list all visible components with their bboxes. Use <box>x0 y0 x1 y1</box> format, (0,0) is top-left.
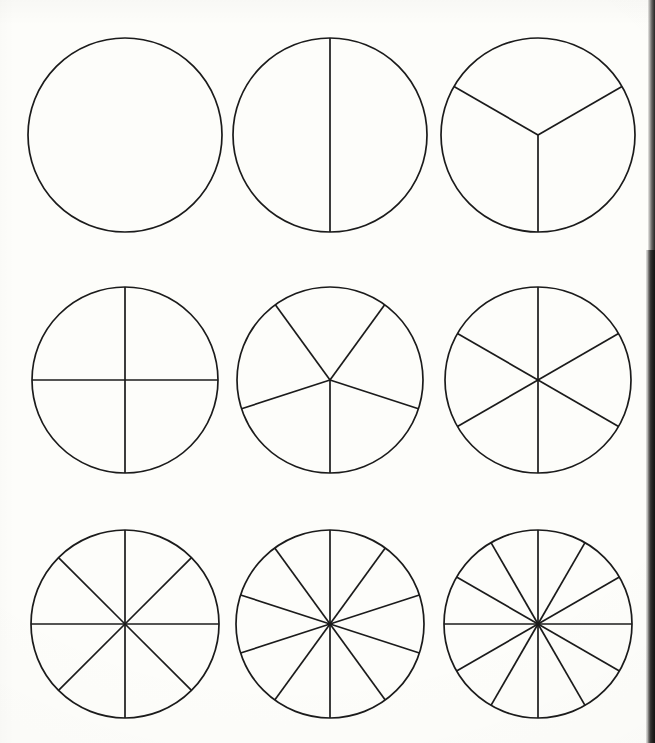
worksheet-page <box>0 0 655 743</box>
fraction-circle-eighths <box>31 530 219 718</box>
sector-divider-10 <box>275 548 330 624</box>
sector-divider-2 <box>125 558 191 624</box>
fraction-circle-halves <box>233 38 427 232</box>
fraction-circle-thirds <box>441 38 635 232</box>
sector-divider-2 <box>538 334 619 381</box>
sector-divider-2 <box>538 543 585 624</box>
fraction-circle-sixths <box>445 287 631 473</box>
sector-divider-6 <box>538 624 585 705</box>
sector-divider-4 <box>125 624 191 690</box>
sector-divider-5 <box>538 624 619 671</box>
circle-outline <box>28 38 222 232</box>
figures-layer <box>28 38 635 718</box>
sector-divider-5 <box>330 380 418 409</box>
sector-divider-3 <box>538 577 619 624</box>
sector-divider-3 <box>538 87 622 136</box>
fraction-circle-tenths <box>236 530 424 718</box>
sector-divider-9 <box>241 595 330 624</box>
sector-divider-5 <box>330 624 385 700</box>
fraction-circle-quarters <box>32 287 218 473</box>
sector-divider-8 <box>59 558 125 624</box>
sector-divider-3 <box>275 305 330 380</box>
sector-divider-5 <box>457 380 538 427</box>
sector-divider-8 <box>491 624 538 705</box>
sector-divider-8 <box>241 624 330 653</box>
fraction-circles-grid <box>0 0 655 743</box>
fraction-circle-twelfths <box>444 530 632 718</box>
sector-divider-3 <box>330 595 419 624</box>
sector-divider-7 <box>275 624 330 700</box>
sector-divider-6 <box>59 624 125 690</box>
sector-divider-3 <box>538 380 619 427</box>
fraction-circle-whole <box>28 38 222 232</box>
sector-divider-2 <box>242 380 330 409</box>
sector-divider-9 <box>457 624 538 671</box>
sector-divider-2 <box>330 548 385 624</box>
fraction-circle-fifths <box>237 287 423 473</box>
sector-divider-4 <box>330 305 385 380</box>
sector-divider-2 <box>454 87 538 136</box>
sector-divider-6 <box>457 334 538 381</box>
sector-divider-4 <box>330 624 419 653</box>
sector-divider-12 <box>491 543 538 624</box>
sector-divider-11 <box>457 577 538 624</box>
